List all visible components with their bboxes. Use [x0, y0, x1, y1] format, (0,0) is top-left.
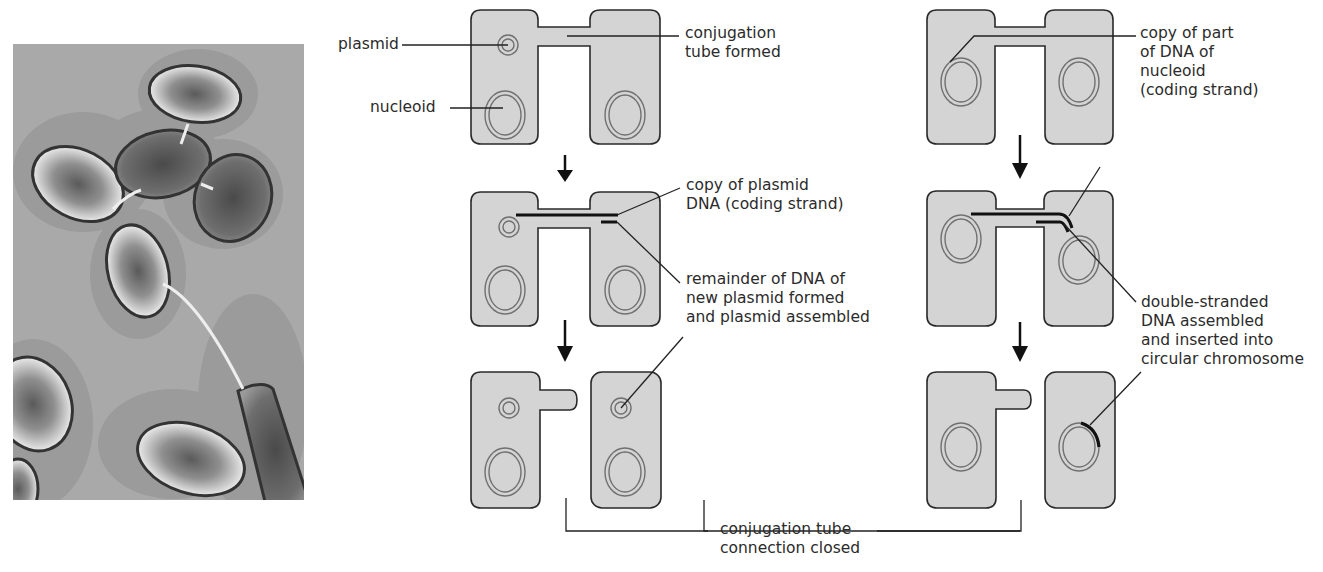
label-double-stranded-3: and inserted into: [1141, 331, 1273, 350]
label-copy-part-3: nucleoid: [1140, 62, 1206, 81]
label-remainder-2: new plasmid formed: [686, 289, 844, 308]
label-copy-part-4: (coding strand): [1140, 81, 1259, 100]
label-double-stranded-2: DNA assembled: [1141, 312, 1264, 331]
right-arrow-1: [1012, 135, 1028, 179]
left-row3-cells: [471, 372, 661, 508]
label-copy-plasmid-1: copy of plasmid: [686, 176, 809, 195]
label-copy-plasmid-2: DNA (coding strand): [686, 195, 844, 214]
left-row2-cells: [471, 192, 660, 326]
label-remainder-1: remainder of DNA of: [686, 270, 845, 289]
label-copy-part-1: copy of part: [1140, 24, 1234, 43]
label-double-stranded-4: circular chromosome: [1141, 350, 1304, 369]
label-conjugation-tube-1: conjugation: [685, 24, 776, 43]
label-copy-part-2: of DNA of: [1140, 43, 1214, 62]
label-nucleoid: nucleoid: [370, 98, 436, 117]
right-row1-cells: [927, 10, 1113, 144]
label-plasmid: plasmid: [338, 35, 399, 54]
label-conjugation-tube-2: tube formed: [685, 43, 781, 62]
label-connection-closed-2: connection closed: [720, 539, 860, 558]
left-arrow-2: [557, 320, 573, 362]
label-connection-closed-1: conjugation tube: [720, 520, 851, 539]
left-row1-cells: [471, 10, 660, 144]
conjugation-diagram: [0, 0, 1323, 572]
right-arrow-2: [1012, 322, 1028, 362]
left-arrow-1: [557, 155, 573, 182]
label-double-stranded-1: double-stranded: [1141, 293, 1268, 312]
right-row3-cells: [927, 372, 1115, 508]
label-remainder-3: and plasmid assembled: [686, 308, 870, 327]
right-row2-cells: [927, 191, 1113, 326]
